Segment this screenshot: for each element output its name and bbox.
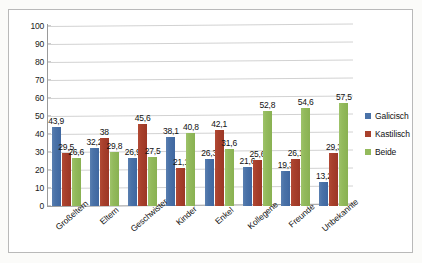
y-axis-tick-label: 100 xyxy=(30,21,44,31)
bar-groups: 43,929,526,632,23829,826,945,627,538,121… xyxy=(47,26,353,206)
bar[interactable]: 26,1 xyxy=(291,159,300,206)
y-axis-tick-label: 90 xyxy=(35,39,44,49)
bar-slot: 29,8 xyxy=(110,26,119,206)
bar-slot: 27,5 xyxy=(148,26,157,206)
bar-group: 26,342,131,6 xyxy=(200,26,238,206)
bar-group: 43,929,526,6 xyxy=(47,26,85,206)
bar-slot: 45,6 xyxy=(138,26,147,206)
y-axis-tick-label: 80 xyxy=(35,57,44,67)
bar-group: 19,326,154,6 xyxy=(277,26,315,206)
bar-group: 21,625,652,8 xyxy=(238,26,276,206)
x-axis-label-cell: Kinder xyxy=(162,208,200,263)
bar-group: 32,23829,8 xyxy=(85,26,123,206)
bar-value-label: 40,8 xyxy=(183,122,199,132)
bar[interactable]: 38,1 xyxy=(166,137,175,206)
bar[interactable]: 26,3 xyxy=(205,159,214,206)
bar-slot: 13,2 xyxy=(319,26,328,206)
bar-slot: 38,1 xyxy=(166,26,175,206)
bar-slot: 52,8 xyxy=(263,26,272,206)
x-axis-label-cell: Geschwister xyxy=(124,208,162,263)
legend-swatch-icon xyxy=(365,113,371,119)
x-axis-category-label: Kinder xyxy=(174,204,199,227)
bar-group: 26,945,627,5 xyxy=(124,26,162,206)
bar-slot: 40,8 xyxy=(186,26,195,206)
y-axis-tick-label: 40 xyxy=(35,129,44,139)
bar-value-label: 54,6 xyxy=(298,97,314,107)
bar[interactable]: 19,3 xyxy=(281,171,290,206)
bar-slot: 31,6 xyxy=(225,26,234,206)
x-axis-category-label: Enkel xyxy=(213,205,235,226)
x-axis-label-cell: Kollegene xyxy=(238,208,276,263)
bar-value-label: 38 xyxy=(100,127,109,137)
bar-slot: 54,6 xyxy=(301,26,310,206)
bar-slot: 32,2 xyxy=(90,26,99,206)
y-axis-labels: 0102030405060708090100 xyxy=(23,26,47,206)
bar[interactable]: 27,5 xyxy=(148,157,157,207)
y-axis-tick-label: 60 xyxy=(35,93,44,103)
y-axis-tick-label: 20 xyxy=(35,165,44,175)
bar[interactable]: 40,8 xyxy=(186,133,195,206)
bar[interactable]: 26,9 xyxy=(128,158,137,206)
legend-item[interactable]: Kastilisch xyxy=(365,129,422,139)
bar[interactable]: 43,9 xyxy=(52,127,61,206)
bar-slot: 43,9 xyxy=(52,26,61,206)
y-axis-tick-label: 70 xyxy=(35,75,44,85)
bar-group: 38,121,140,8 xyxy=(162,26,200,206)
bar[interactable]: 52,8 xyxy=(263,111,272,206)
legend-label: Galicisch xyxy=(375,111,409,121)
bar[interactable]: 25,6 xyxy=(253,160,262,206)
y-axis-tick-label: 10 xyxy=(35,183,44,193)
bar[interactable]: 32,2 xyxy=(90,148,99,206)
bar[interactable]: 21,1 xyxy=(176,168,185,206)
bar-slot: 29,5 xyxy=(62,26,71,206)
legend-label: Beide xyxy=(375,147,396,157)
bar[interactable]: 21,6 xyxy=(243,167,252,206)
x-axis-label-cell: Freunde xyxy=(277,208,315,263)
bar-slot: 38 xyxy=(100,26,109,206)
bar[interactable]: 13,2 xyxy=(319,182,328,206)
x-axis-label-cell: Enkel xyxy=(200,208,238,263)
bar-slot: 21,6 xyxy=(243,26,252,206)
bar-value-label: 31,6 xyxy=(221,138,237,148)
legend-swatch-icon xyxy=(365,149,371,155)
bar[interactable]: 29,8 xyxy=(110,152,119,206)
x-axis-label-cell: Großeltern xyxy=(47,208,85,263)
bar-slot: 57,5 xyxy=(339,26,348,206)
bar-slot: 29,3 xyxy=(329,26,338,206)
plot-area: 43,929,526,632,23829,826,945,627,538,121… xyxy=(47,26,353,206)
chart-frame: 0102030405060708090100 43,929,526,632,23… xyxy=(8,9,413,253)
bar-slot: 26,6 xyxy=(72,26,81,206)
legend-item[interactable]: Beide xyxy=(365,147,422,157)
bar[interactable]: 31,6 xyxy=(225,149,234,206)
x-axis-category-label: Eltern xyxy=(98,205,121,227)
bar-value-label: 26,6 xyxy=(68,147,84,157)
bar-value-label: 57,5 xyxy=(336,92,352,102)
bar-slot: 42,1 xyxy=(215,26,224,206)
y-axis-tick-label: 50 xyxy=(35,111,44,121)
legend-label: Kastilisch xyxy=(375,129,410,139)
bar-value-label: 52,8 xyxy=(260,100,276,110)
x-axis-label-cell: Unbekannte xyxy=(315,208,353,263)
bar[interactable]: 29,5 xyxy=(62,153,71,206)
x-axis-label-cell: Eltern xyxy=(85,208,123,263)
bar[interactable]: 45,6 xyxy=(138,124,147,206)
x-axis-labels: GroßelternElternGeschwisterKinderEnkelKo… xyxy=(47,208,353,263)
bar-value-label: 29,8 xyxy=(107,141,123,151)
y-axis-tick-label: 0 xyxy=(39,201,44,211)
bar-slot: 21,1 xyxy=(176,26,185,206)
bar[interactable]: 54,6 xyxy=(301,108,310,206)
bar-slot: 25,6 xyxy=(253,26,262,206)
bar-value-label: 27,5 xyxy=(145,146,161,156)
bar-slot: 19,3 xyxy=(281,26,290,206)
bar[interactable]: 57,5 xyxy=(339,103,348,207)
bar[interactable]: 29,3 xyxy=(329,153,338,206)
legend-item[interactable]: Galicisch xyxy=(365,111,422,121)
chart-container: 0102030405060708090100 43,929,526,632,23… xyxy=(0,0,422,263)
bar-slot: 26,1 xyxy=(291,26,300,206)
bar-slot: 26,3 xyxy=(205,26,214,206)
y-axis-tick-label: 30 xyxy=(35,147,44,157)
bar[interactable]: 26,6 xyxy=(72,158,81,206)
chart-legend: GalicischKastilischBeide xyxy=(365,111,422,165)
bar-group: 13,229,357,5 xyxy=(315,26,353,206)
legend-swatch-icon xyxy=(365,131,371,137)
